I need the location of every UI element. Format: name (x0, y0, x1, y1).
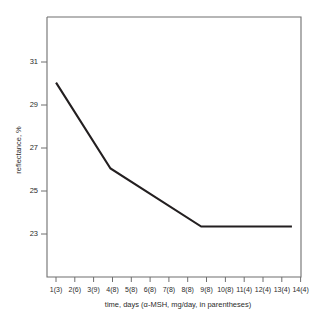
y-tick-label: 23 (30, 229, 38, 238)
y-axis-title: reflectance, % (14, 126, 23, 174)
x-tick-label: 9(8) (200, 286, 212, 294)
x-axis-title: time, days (α-MSH, mg/day, in parenthese… (105, 300, 252, 309)
x-tick-label: 8(8) (181, 286, 193, 294)
x-tick-label: 2(6) (69, 286, 81, 294)
x-tick-label: 13(4) (274, 286, 290, 294)
x-tick-label: 12(4) (255, 286, 271, 294)
chart-figure: 31 29 27 25 23 reflectance, % (0, 0, 328, 316)
x-tick-label: 10(8) (217, 286, 233, 294)
chart-background (0, 0, 328, 316)
x-tick-label: 14(4) (292, 286, 308, 294)
x-tick-label: 6(8) (144, 286, 156, 294)
y-tick-label: 31 (30, 57, 38, 66)
y-tick-label: 29 (30, 100, 38, 109)
y-tick-label: 25 (30, 186, 38, 195)
line-chart: 31 29 27 25 23 reflectance, % (0, 0, 328, 316)
x-tick-label: 11(4) (236, 286, 252, 294)
x-tick-label: 1(3) (50, 286, 62, 294)
y-tick-label: 27 (30, 143, 38, 152)
x-tick-label: 4(8) (106, 286, 118, 294)
x-tick-label: 7(8) (163, 286, 175, 294)
x-tick-label: 3(9) (87, 286, 99, 294)
x-tick-label: 5(8) (125, 286, 137, 294)
